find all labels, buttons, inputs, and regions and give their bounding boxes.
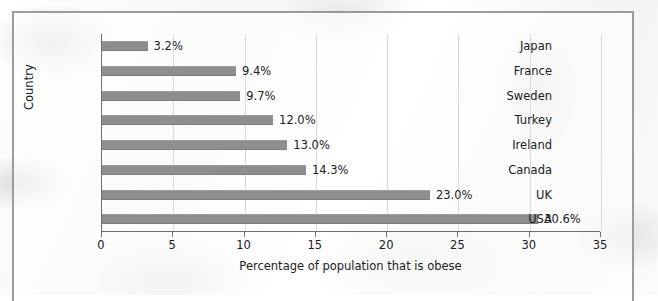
gridline [601,34,602,231]
category-label-usa: USA [528,207,552,231]
x-axis-tick [172,232,173,237]
x-axis-tick [315,232,316,237]
y-axis-title: Country [22,64,36,110]
bar-value-label: 9.7% [246,85,275,107]
x-axis-tick-label: 35 [593,238,608,252]
x-axis-tick [101,232,102,237]
x-axis-tick [600,232,601,237]
category-label-japan: Japan [520,34,552,58]
category-label-sweden: Sweden [507,84,552,108]
x-axis-tick-label: 20 [379,238,394,252]
x-axis-tick-label: 10 [236,238,251,252]
x-axis-tick-label: 25 [450,238,465,252]
category-label-uk: UK [536,183,552,207]
category-label-turkey: Turkey [515,108,552,132]
bar-value-label: 9.4% [242,60,271,82]
bar-value-label: 13.0% [293,134,330,156]
x-axis-tick [244,232,245,237]
bar [102,115,273,125]
bar-row: 30.6% [102,207,600,232]
bar [102,165,306,175]
x-axis-tick [457,232,458,237]
x-axis-tick-label: 30 [521,238,536,252]
x-axis-tick-label: 5 [169,238,176,252]
bar [102,66,236,76]
bar [102,41,148,51]
bar [102,140,287,150]
category-label-canada: Canada [508,158,552,182]
x-axis-tick-label: 15 [308,238,323,252]
bar-value-label: 12.0% [279,109,316,131]
bar [102,214,538,224]
bar-row: 23.0% [102,183,600,208]
x-axis-tick-label: 0 [97,238,104,252]
category-label-ireland: Ireland [512,133,552,157]
bar [102,190,430,200]
bar-value-label: 23.0% [436,184,473,206]
x-axis-title: Percentage of population that is obese [101,259,600,273]
category-label-france: France [514,59,552,83]
bar-value-label: 14.3% [312,159,349,181]
x-axis-tick [386,232,387,237]
x-axis-tick [529,232,530,237]
bar [102,91,240,101]
bar-value-label: 3.2% [154,35,183,57]
